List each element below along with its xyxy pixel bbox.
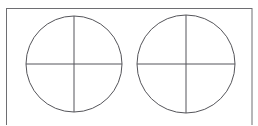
right-circle-group xyxy=(137,15,235,113)
outer-rectangle xyxy=(7,9,253,126)
left-circle-group xyxy=(26,16,122,112)
figure-svg: Two circles divided into quadrants insid… xyxy=(0,0,258,125)
diagram-canvas: Two circles divided into quadrants insid… xyxy=(0,0,258,125)
